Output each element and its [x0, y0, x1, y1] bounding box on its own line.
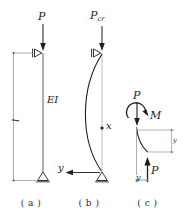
label-load-p-a: P [38, 11, 45, 22]
panel-a: P l EI ( a ) [0, 0, 62, 222]
segment-curve [137, 127, 148, 152]
bottom-pin-support-b [95, 172, 109, 182]
panel-b-graphic [58, 0, 120, 200]
force-arrow-p-bottom [144, 157, 150, 182]
label-force-p-bottom: P [151, 165, 158, 176]
figure-container: P l EI ( a ) [0, 0, 183, 222]
length-dimension-line [12, 52, 36, 182]
label-pcr-subscript: cr [97, 15, 104, 23]
caption-panel-b: ( b ) [58, 198, 120, 208]
label-axis-x: x [106, 121, 112, 131]
label-load-pcr: Pcr [90, 10, 104, 22]
y-axis-arrow [66, 170, 101, 175]
label-axis-y: y [58, 163, 64, 173]
top-roller-support-b [92, 49, 101, 58]
buckled-shape-curve [85, 54, 102, 171]
label-bottom-coordinate-y: y [136, 174, 141, 182]
caption-panel-c: ( c ) [112, 198, 183, 208]
load-arrow-p [40, 24, 46, 51]
caption-panel-a: ( a ) [0, 198, 62, 208]
label-deflection-y: y [173, 137, 177, 144]
panel-c-graphic [112, 0, 183, 200]
deflection-dimension [137, 129, 174, 153]
top-roller-support [33, 49, 42, 58]
panel-b: Pcr x y ( b ) [58, 0, 120, 222]
label-moment-m: M [150, 110, 161, 121]
label-force-p-top: P [133, 90, 140, 101]
x-axis-marker [100, 126, 103, 129]
panel-c: P M y P y ( c ) [112, 0, 183, 222]
bottom-pin-support [36, 172, 50, 182]
load-arrow-pcr [99, 26, 105, 51]
label-rigidity-ei: EI [47, 95, 58, 105]
label-length-l: l [11, 119, 21, 122]
force-arrow-p-top [134, 103, 140, 126]
